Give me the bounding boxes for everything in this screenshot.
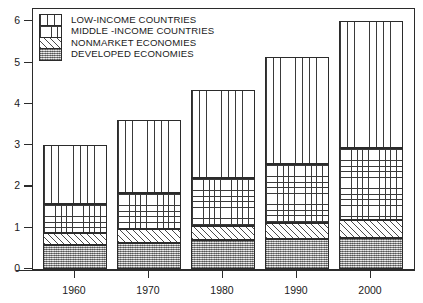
bar-1970-segment-developed — [117, 243, 181, 269]
y-tick-label-2: 2 — [14, 180, 20, 190]
y-tick-mark-4 — [24, 103, 32, 104]
bar-2000-segment-nonmarket — [339, 220, 403, 238]
y-tick-mark-0 — [24, 268, 32, 269]
legend-labels: LOW-INCOME COUNTRIES MIDDLE -INCOME COUN… — [71, 14, 214, 59]
bar-1980-segment-low-income — [191, 90, 255, 179]
bar-1970-segment-low-income — [117, 120, 181, 193]
bar-1960-segment-nonmarket — [43, 233, 107, 245]
bar-2000-segment-low-income — [339, 21, 403, 149]
y-tick-label-3: 3 — [14, 139, 20, 149]
bar-1990 — [265, 9, 329, 269]
y-tick-mark-1 — [24, 227, 32, 228]
bar-1980-segment-nonmarket — [191, 226, 255, 240]
bar-1970-segment-middle-income — [117, 193, 181, 229]
legend-label-low-income: LOW-INCOME COUNTRIES — [71, 14, 214, 25]
x-tick-mark-1970 — [148, 270, 149, 278]
bar-1960-segment-middle-income — [43, 204, 107, 232]
bar-2000-segment-middle-income — [339, 148, 403, 220]
bar-1990-segment-middle-income — [265, 164, 329, 223]
y-tick-label-6: 6 — [14, 15, 20, 25]
legend: LOW-INCOME COUNTRIES MIDDLE -INCOME COUN… — [39, 14, 214, 61]
x-axis-line — [16, 270, 415, 271]
bar-1990-segment-developed — [265, 239, 329, 269]
x-tick-label-1980: 1980 — [210, 285, 233, 296]
x-tick-mark-1990 — [296, 270, 297, 278]
legend-swatch-low-income — [40, 15, 61, 26]
y-axis: 6 5 4 3 2 1 0 — [0, 0, 32, 303]
x-axis: 1960 1970 1980 1990 2000 — [0, 270, 423, 303]
legend-swatches — [39, 14, 62, 61]
bar-1990-segment-nonmarket — [265, 223, 329, 239]
bar-1980-segment-developed — [191, 240, 255, 269]
bar-1980-segment-middle-income — [191, 178, 255, 225]
plot-area: LOW-INCOME COUNTRIES MIDDLE -INCOME COUN… — [32, 8, 415, 270]
y-tick-mark-5 — [24, 62, 32, 63]
legend-label-nonmarket: NONMARKET ECONOMIES — [71, 37, 214, 48]
x-tick-label-2000: 2000 — [358, 285, 381, 296]
legend-swatch-developed — [40, 49, 61, 60]
bar-1960-segment-developed — [43, 245, 107, 269]
x-tick-mark-2000 — [370, 270, 371, 278]
x-tick-label-1970: 1970 — [136, 285, 159, 296]
y-tick-label-5: 5 — [14, 57, 20, 67]
y-tick-mark-2 — [24, 185, 32, 186]
y-tick-mark-3 — [24, 144, 32, 145]
x-tick-mark-1960 — [74, 270, 75, 278]
y-tick-label-1: 1 — [14, 222, 20, 232]
y-tick-mark-6 — [24, 20, 32, 21]
legend-swatch-nonmarket — [40, 38, 61, 49]
bar-1960-segment-low-income — [43, 145, 107, 204]
x-tick-label-1990: 1990 — [284, 285, 307, 296]
y-tick-label-4: 4 — [14, 98, 20, 108]
legend-label-developed: DEVELOPED ECONOMIES — [71, 48, 214, 59]
x-tick-mark-1980 — [222, 270, 223, 278]
legend-swatch-middle-income — [40, 26, 61, 37]
bar-2000 — [339, 9, 403, 269]
stacked-bar-chart: 6 5 4 3 2 1 0 — [0, 0, 423, 303]
bar-2000-segment-developed — [339, 238, 403, 269]
bar-1990-segment-low-income — [265, 57, 329, 164]
legend-label-middle-income: MIDDLE -INCOME COUNTRIES — [71, 25, 214, 36]
x-tick-label-1960: 1960 — [62, 285, 85, 296]
bar-1970-segment-nonmarket — [117, 229, 181, 244]
